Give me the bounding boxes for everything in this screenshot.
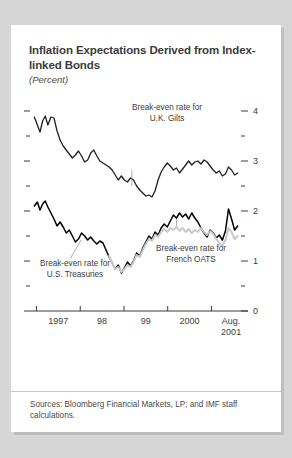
svg-text:98: 98: [97, 316, 107, 326]
svg-text:2: 2: [253, 206, 258, 216]
x-axis: 199798992000Aug.2001: [30, 306, 248, 337]
annotation-uk-gilts: Break-even rate for U.K. Gilts: [115, 103, 219, 124]
annotation-us-treasuries: Break-even rate for U.S. Treasuries: [25, 259, 125, 280]
svg-text:3: 3: [253, 156, 258, 166]
source-divider: [11, 391, 281, 392]
chart-title: Inflation Expectations Derived from Inde…: [29, 43, 265, 72]
svg-text:4: 4: [253, 106, 258, 116]
svg-text:Aug.: Aug.: [222, 316, 241, 326]
chart-subtitle: (Percent): [29, 74, 68, 85]
plot-area: 01234 199798992000Aug.2001: [11, 95, 281, 357]
annotation-french-oats: Break-even rate for French OATS: [139, 244, 243, 265]
svg-text:99: 99: [141, 316, 151, 326]
line-chart-svg: 01234 199798992000Aug.2001: [11, 95, 281, 357]
figure-card: Inflation Expectations Derived from Inde…: [11, 25, 281, 432]
source-note: Sources: Bloomberg Financial Markets, LP…: [30, 399, 268, 421]
svg-text:1: 1: [253, 256, 258, 266]
svg-text:2000: 2000: [180, 316, 200, 326]
svg-text:2001: 2001: [221, 327, 241, 337]
svg-text:1997: 1997: [48, 316, 68, 326]
svg-text:0: 0: [253, 306, 258, 316]
